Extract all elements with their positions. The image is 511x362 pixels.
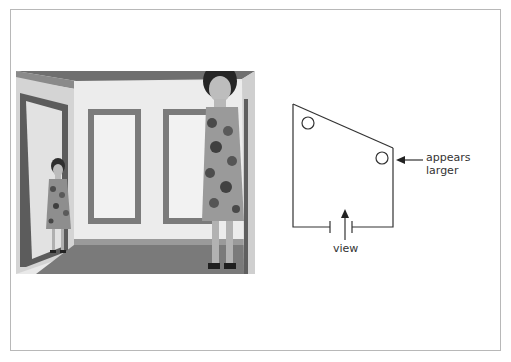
room-wall-left (293, 104, 330, 227)
person-far-circle (302, 117, 314, 129)
ames-room-floorplan-diagram: appears larger view (280, 90, 460, 270)
room-wall-back (293, 104, 393, 148)
arrow-up-icon (341, 209, 349, 218)
label-appears: appears (426, 152, 470, 164)
person-near-circle (376, 152, 388, 164)
room-wall-right (352, 148, 393, 227)
label-view: view (333, 243, 358, 255)
arrow-left-icon (396, 156, 405, 164)
ames-room-photo (16, 71, 255, 274)
label-larger: larger (426, 165, 458, 177)
